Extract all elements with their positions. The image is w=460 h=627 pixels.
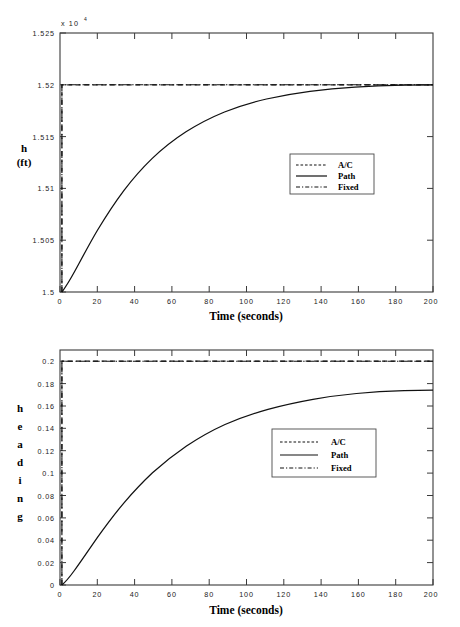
heading-ytick-label-4: 0.08 <box>37 492 55 501</box>
altitude-xtick-label-10: 200 <box>424 297 439 306</box>
heading-xtick-label-1: 20 <box>92 590 102 599</box>
heading-xtick-label-4: 80 <box>204 590 214 599</box>
altitude-series-path <box>62 85 433 292</box>
altitude-legend-label-fixed: Fixed <box>338 182 359 192</box>
altitude-xtick-label-6: 120 <box>276 297 291 306</box>
altitude-ylabel-line-0: h <box>21 142 27 154</box>
altitude-xtick-label-1: 20 <box>92 297 102 306</box>
heading-legend-label-ac: A/C <box>331 437 346 447</box>
altitude-legend-label-path: Path <box>338 171 355 181</box>
altitude-xtick-label-9: 180 <box>388 297 403 306</box>
heading-series-path <box>62 390 433 585</box>
altitude-xtick-label-7: 140 <box>314 297 329 306</box>
heading-series-fixed <box>62 361 433 585</box>
heading-xticks-bottom <box>60 579 433 585</box>
heading-xtick-label-6: 120 <box>276 590 291 599</box>
heading-ytick-label-8: 0.16 <box>37 402 55 411</box>
heading-xtick-label-0: 0 <box>58 590 63 599</box>
y-multiplier-label: x 10 <box>61 19 79 28</box>
altitude-ytick-label-0: 1.5 <box>42 288 55 297</box>
altitude-ytick-label-2: 1.51 <box>37 184 55 193</box>
heading-yticks-right <box>427 361 433 562</box>
altitude-xtick-label-3: 60 <box>167 297 177 306</box>
heading-ytick-label-2: 0.04 <box>37 536 55 545</box>
altitude-chart: x 10 4 <box>17 16 439 323</box>
heading-ylabel-letter-3: d <box>17 456 23 468</box>
heading-ytick-label-0: 0 <box>50 581 55 590</box>
altitude-xtick-label-5: 100 <box>239 297 254 306</box>
heading-ylabel-letter-5: n <box>17 492 23 504</box>
altitude-ytick-label-3: 1.515 <box>33 133 56 142</box>
heading-xticks-top <box>97 350 395 356</box>
altitude-legend-box <box>290 154 374 194</box>
y-multiplier-exponent: 4 <box>84 16 87 22</box>
heading-ytick-label-5: 0.1 <box>42 469 55 478</box>
heading-legend-box <box>272 429 376 477</box>
altitude-series-fixed <box>62 85 433 292</box>
heading-ylabel-letter-1: e <box>18 420 23 432</box>
altitude-legend[interactable]: A/C Path Fixed <box>290 154 374 194</box>
heading-yticks-left <box>60 361 66 585</box>
altitude-ytick-label-1: 1.505 <box>33 236 56 245</box>
heading-legend-label-path: Path <box>331 450 348 460</box>
altitude-xticks-bottom <box>60 286 433 292</box>
heading-ytick-label-3: 0.06 <box>37 514 55 523</box>
heading-ytick-label-7: 0.14 <box>37 424 55 433</box>
heading-xtick-label-9: 180 <box>388 590 403 599</box>
heading-xtick-label-7: 140 <box>314 590 329 599</box>
heading-xtick-label-3: 60 <box>167 590 177 599</box>
altitude-xtick-label-2: 40 <box>130 297 140 306</box>
heading-ylabel-letter-4: i <box>18 474 21 486</box>
altitude-xticks-top <box>97 33 395 39</box>
heading-legend[interactable]: A/C Path Fixed <box>272 429 376 477</box>
heading-axes-box <box>60 350 433 585</box>
altitude-xtick-label-4: 80 <box>204 297 214 306</box>
heading-legend-label-fixed: Fixed <box>331 463 352 473</box>
heading-series-ac <box>62 361 433 585</box>
heading-ytick-label-10: 0.2 <box>42 357 55 366</box>
altitude-xlabel: Time (seconds) <box>209 310 283 323</box>
figure-panel: x 10 4 <box>0 0 460 627</box>
altitude-ylabel-line-1: (ft) <box>17 156 32 169</box>
heading-ylabel-letter-0: h <box>17 402 23 414</box>
heading-xtick-label-2: 40 <box>130 590 140 599</box>
heading-xlabel: Time (seconds) <box>209 604 283 617</box>
heading-ytick-label-6: 0.12 <box>37 447 55 456</box>
altitude-yticks-left <box>60 33 66 292</box>
altitude-yticks-right <box>427 85 433 240</box>
heading-ylabel-letter-6: g <box>17 510 23 522</box>
heading-ytick-label-1: 0.02 <box>37 559 55 568</box>
altitude-axes-box <box>60 33 433 292</box>
heading-ytick-label-9: 0.18 <box>37 380 55 389</box>
heading-xtick-label-5: 100 <box>239 590 254 599</box>
heading-ylabel-letter-2: a <box>17 438 23 450</box>
heading-xtick-label-10: 200 <box>424 590 439 599</box>
altitude-ytick-label-4: 1.52 <box>37 81 55 90</box>
altitude-xtick-label-0: 0 <box>58 297 63 306</box>
matlab-figure-svg: x 10 4 <box>0 0 460 627</box>
heading-xtick-label-8: 160 <box>351 590 366 599</box>
altitude-xtick-label-8: 160 <box>351 297 366 306</box>
altitude-legend-label-ac: A/C <box>338 160 353 170</box>
altitude-ytick-label-5: 1.525 <box>33 29 56 38</box>
heading-chart: 0 0.02 0.04 0.06 0.08 0.1 0.12 0.14 0.16… <box>17 350 438 617</box>
altitude-series-ac <box>62 85 433 292</box>
